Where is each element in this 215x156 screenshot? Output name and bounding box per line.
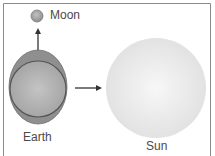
arrow-up-icon bbox=[35, 28, 41, 52]
moon-label: Moon bbox=[50, 8, 80, 22]
earth-icon bbox=[9, 50, 67, 124]
earth-label: Earth bbox=[23, 130, 52, 144]
sun-icon bbox=[106, 38, 206, 138]
moon-icon bbox=[31, 10, 43, 22]
arrow-right-icon bbox=[75, 85, 102, 91]
sun-label: Sun bbox=[146, 139, 167, 153]
